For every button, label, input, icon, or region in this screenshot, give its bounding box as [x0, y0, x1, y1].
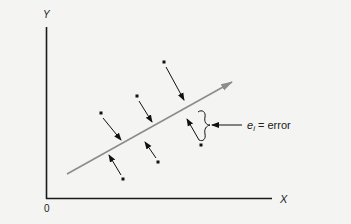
residual-arrow — [139, 101, 152, 122]
data-point — [200, 144, 203, 147]
x-axis-label: X — [279, 193, 288, 205]
residual-arrow — [109, 155, 121, 175]
data-point — [136, 95, 139, 98]
regression-line — [67, 82, 232, 174]
error-label: ei = error — [247, 119, 291, 133]
y-axis-label: Y — [43, 9, 51, 20]
data-point — [100, 112, 103, 115]
data-point — [122, 178, 125, 181]
error-text: = error — [255, 119, 291, 131]
residual-arrow — [145, 142, 156, 158]
data-point — [157, 161, 160, 164]
data-point — [163, 61, 166, 64]
residual-arrow — [103, 118, 121, 140]
regression-diagram: ei = error Y X 0 — [0, 0, 351, 224]
residual-arrow — [187, 119, 199, 140]
error-brace — [198, 111, 210, 141]
origin-label: 0 — [44, 203, 50, 214]
residual-arrow — [166, 67, 184, 100]
diagram-svg: ei = error Y X 0 — [0, 0, 351, 224]
